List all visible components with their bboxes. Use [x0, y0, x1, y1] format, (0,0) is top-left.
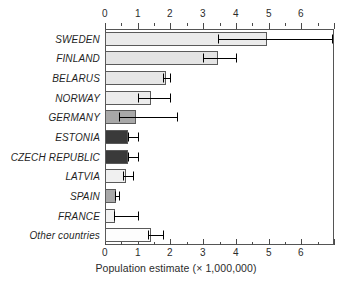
error-bar — [128, 157, 138, 158]
error-bar-cap — [138, 211, 139, 220]
error-bar-cap — [218, 34, 219, 43]
error-bar — [128, 137, 138, 138]
bar — [105, 71, 166, 85]
error-bar-cap — [138, 93, 139, 102]
x-tick-label: 5 — [259, 8, 279, 19]
category-label: FRANCE — [58, 210, 100, 221]
error-bar-cap — [148, 231, 149, 240]
error-bar-cap — [170, 74, 171, 83]
bar-row: ESTONIA — [0, 127, 352, 147]
bar-row: SWEDEN — [0, 29, 352, 49]
error-bar — [138, 98, 170, 99]
population-estimate-bar-chart: 0123456 0123456 SWEDENFINLANDBELARUSNORW… — [0, 0, 352, 286]
x-tick-label: 0 — [95, 8, 115, 19]
axis-tick-minor — [252, 23, 253, 26]
bar-row: CZECH REPUBLIC — [0, 147, 352, 167]
category-label: SPAIN — [70, 190, 100, 201]
x-axis-title: Population estimate (× 1,000,000) — [0, 262, 352, 274]
error-bar-cap — [163, 74, 164, 83]
bar-row: BELARUS — [0, 68, 352, 88]
x-tick-label: 3 — [193, 247, 213, 258]
error-bar-cap — [138, 152, 139, 161]
error-bar-cap — [177, 113, 178, 122]
error-bar — [114, 216, 138, 217]
x-tick-label: 6 — [291, 8, 311, 19]
error-bar-cap — [170, 93, 171, 102]
error-bar — [218, 39, 333, 40]
category-label: ESTONIA — [55, 131, 100, 142]
bar-row: Other countries — [0, 225, 352, 245]
x-tick-label: 1 — [128, 247, 148, 258]
category-label: LATVIA — [65, 171, 100, 182]
error-bar-cap — [133, 172, 134, 181]
x-tick-label: 4 — [226, 8, 246, 19]
category-label: FINLAND — [56, 53, 100, 64]
axis-tick-minor — [154, 23, 155, 26]
error-bar — [123, 176, 133, 177]
bar-row: FINLAND — [0, 49, 352, 69]
error-bar-cap — [203, 54, 204, 63]
category-label: Other countries — [29, 230, 100, 241]
error-bar-cap — [123, 172, 124, 181]
error-bar-cap — [332, 34, 333, 43]
x-tick-label: 2 — [160, 8, 180, 19]
error-bar-cap — [128, 152, 129, 161]
x-tick-label: 1 — [128, 8, 148, 19]
error-bar-cap — [128, 132, 129, 141]
axis-tick-minor — [285, 23, 286, 26]
error-bar — [119, 117, 177, 118]
category-label: GERMANY — [48, 112, 100, 123]
axis-tick-minor — [318, 23, 319, 26]
error-bar-cap — [115, 191, 116, 200]
axis-tick-minor — [187, 23, 188, 26]
error-bar — [163, 78, 170, 79]
x-tick-label: 4 — [226, 247, 246, 258]
axis-tick-minor — [220, 23, 221, 26]
bar-row: SPAIN — [0, 186, 352, 206]
error-bar-cap — [119, 191, 120, 200]
category-label: BELARUS — [52, 73, 100, 84]
error-bar-cap — [163, 231, 164, 240]
bar-row: LATVIA — [0, 166, 352, 186]
bar-row: FRANCE — [0, 206, 352, 226]
error-bar-cap — [114, 211, 115, 220]
bar — [105, 51, 218, 65]
x-tick-label: 5 — [259, 247, 279, 258]
error-bar-cap — [119, 113, 120, 122]
axis-tick-minor — [121, 23, 122, 26]
error-bar — [203, 58, 236, 59]
bar — [105, 228, 151, 242]
error-bar-cap — [236, 54, 237, 63]
bar — [105, 130, 128, 144]
bar — [105, 150, 128, 164]
x-tick-label: 0 — [95, 247, 115, 258]
x-tick-label: 3 — [193, 8, 213, 19]
error-bar — [148, 235, 163, 236]
bar-row: NORWAY — [0, 88, 352, 108]
category-label: NORWAY — [55, 92, 100, 103]
x-tick-label: 2 — [160, 247, 180, 258]
error-bar-cap — [138, 132, 139, 141]
category-label: SWEDEN — [55, 33, 100, 44]
x-tick-label: 6 — [291, 247, 311, 258]
category-label: CZECH REPUBLIC — [11, 151, 100, 162]
bar-row: GERMANY — [0, 108, 352, 128]
